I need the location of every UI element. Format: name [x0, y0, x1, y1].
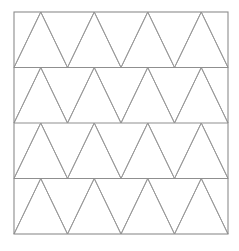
diagonal-line-57 [121, 179, 148, 235]
diagonal-line-31 [201, 68, 228, 124]
diagonal-line-45 [175, 123, 202, 179]
diagonal-line-62 [148, 179, 175, 235]
diagonal-line-13 [175, 12, 202, 68]
diagonal-line-63 [201, 179, 228, 235]
horizontal-lines-group [14, 68, 228, 179]
diagonal-line-47 [201, 123, 228, 179]
diagonal-line-22 [41, 68, 68, 124]
diagonal-line-42 [94, 123, 121, 179]
diagonal-line-30 [148, 68, 175, 124]
diagonal-line-15 [201, 12, 228, 68]
diagonal-line-34 [14, 123, 41, 179]
diagonal-line-58 [94, 179, 121, 235]
diagonal-line-46 [148, 123, 175, 179]
diagonal-line-53 [68, 179, 95, 235]
diagonal-line-38 [41, 123, 68, 179]
diagonal-line-10 [94, 12, 121, 68]
diagonal-line-25 [121, 68, 148, 124]
diagonal-line-18 [14, 68, 41, 124]
diagonal-line-37 [68, 123, 95, 179]
diagonal-line-14 [148, 12, 175, 68]
diagonal-line-5 [68, 12, 95, 68]
diagonal-line-61 [175, 179, 202, 235]
triangular-tessellation-figure [0, 0, 239, 251]
figure-root [0, 0, 239, 251]
diagonal-line-9 [121, 12, 148, 68]
diagonal-line-26 [94, 68, 121, 124]
diagonal-line-50 [14, 179, 41, 235]
diagonal-line-2 [14, 12, 41, 68]
diagonal-line-6 [41, 12, 68, 68]
diagonal-line-29 [175, 68, 202, 124]
diagonal-line-41 [121, 123, 148, 179]
diagonal-line-21 [68, 68, 95, 124]
diagonal-line-54 [41, 179, 68, 235]
